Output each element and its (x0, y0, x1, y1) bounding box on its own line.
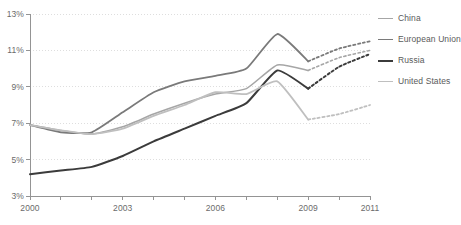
chart-legend: ChinaEuropean UnionRussiaUnited States (378, 8, 458, 92)
series-lines (30, 34, 370, 174)
legend-color-swatch (378, 39, 393, 40)
x-tick-label: 2011 (353, 203, 387, 213)
x-tick-label: 2003 (106, 203, 140, 213)
x-tick-label: 2006 (198, 203, 232, 213)
y-tick-label: 7% (0, 118, 24, 128)
x-tick-label: 2000 (13, 203, 47, 213)
y-tick-label: 9% (0, 82, 24, 92)
legend-color-swatch (378, 18, 393, 19)
legend-label: European Union (398, 35, 461, 44)
y-tick-label: 11% (0, 45, 24, 55)
legend-item[interactable]: China (378, 8, 458, 29)
y-tick-label: 3% (0, 191, 24, 201)
y-tick-label: 5% (0, 155, 24, 165)
legend-color-swatch (378, 60, 393, 62)
legend-color-swatch (378, 81, 393, 82)
legend-item[interactable]: United States (378, 71, 458, 92)
legend-label: United States (398, 77, 450, 86)
x-tick-label: 2009 (291, 203, 325, 213)
legend-item[interactable]: European Union (378, 29, 458, 50)
axis-ticks (26, 14, 370, 200)
legend-label: China (398, 14, 421, 23)
legend-label: Russia (398, 56, 425, 65)
y-tick-label: 13% (0, 9, 24, 19)
legend-item[interactable]: Russia (378, 50, 458, 71)
